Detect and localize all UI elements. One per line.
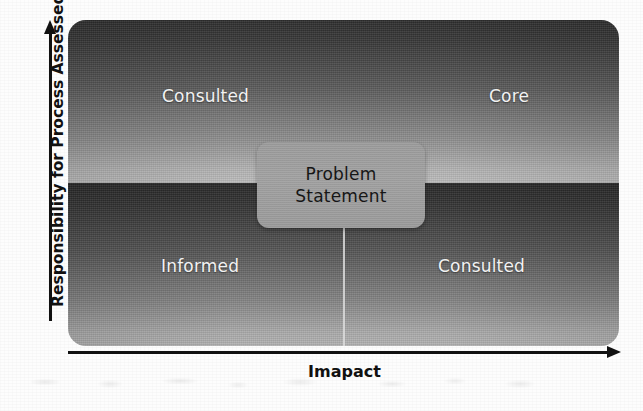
callout-connector-line	[343, 224, 345, 346]
x-axis	[68, 349, 621, 357]
callout-grain-overlay	[257, 142, 425, 228]
problem-statement-line-2: Statement	[295, 186, 386, 206]
quadrant-label-bottom-left: Informed	[161, 256, 239, 276]
quadrant-label-top-left: Consulted	[162, 86, 249, 106]
x-axis-arrow-right-icon	[607, 346, 621, 358]
y-axis-label: Responsibility for Process Assessed	[49, 7, 67, 307]
problem-statement-callout: Problem Statement	[257, 142, 425, 228]
x-axis-label: Imapact	[68, 362, 621, 381]
problem-statement-line-1: Problem	[306, 164, 377, 184]
x-axis-line	[68, 351, 608, 354]
quadrant-label-top-right: Core	[489, 86, 529, 106]
quadrant-label-bottom-right: Consulted	[438, 256, 525, 276]
